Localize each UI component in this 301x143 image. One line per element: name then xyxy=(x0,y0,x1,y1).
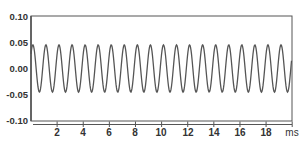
y-tick-label: -0.05 xyxy=(6,89,28,100)
x-tick-label: 16 xyxy=(234,127,246,138)
x-tick-label: 18 xyxy=(260,127,272,138)
x-tick-label: 14 xyxy=(208,127,220,138)
y-tick-label: -0.10 xyxy=(6,115,28,126)
x-unit-label: ms xyxy=(285,127,298,138)
sine-wave-trace xyxy=(31,45,292,92)
x-tick-label: 6 xyxy=(106,127,112,138)
x-tick-label: 2 xyxy=(54,127,60,138)
y-tick-label: 0.10 xyxy=(10,11,29,22)
y-tick-label: 0.00 xyxy=(10,63,29,74)
x-tick-labels: 2 4 6 8 10 12 14 16 18 ms xyxy=(54,127,298,138)
x-tick-label: 12 xyxy=(182,127,194,138)
y-tick-labels: 0.10 0.05 0.00 -0.05 -0.10 xyxy=(6,11,28,126)
x-tick-label: 4 xyxy=(80,127,86,138)
y-tick-label: 0.05 xyxy=(10,37,29,48)
x-tick-label: 8 xyxy=(132,127,138,138)
sine-wave-chart: 0.10 0.05 0.00 -0.05 -0.10 2 4 6 8 10 12… xyxy=(0,0,301,143)
plot-frame xyxy=(31,16,292,121)
x-tick-label: 10 xyxy=(155,127,167,138)
